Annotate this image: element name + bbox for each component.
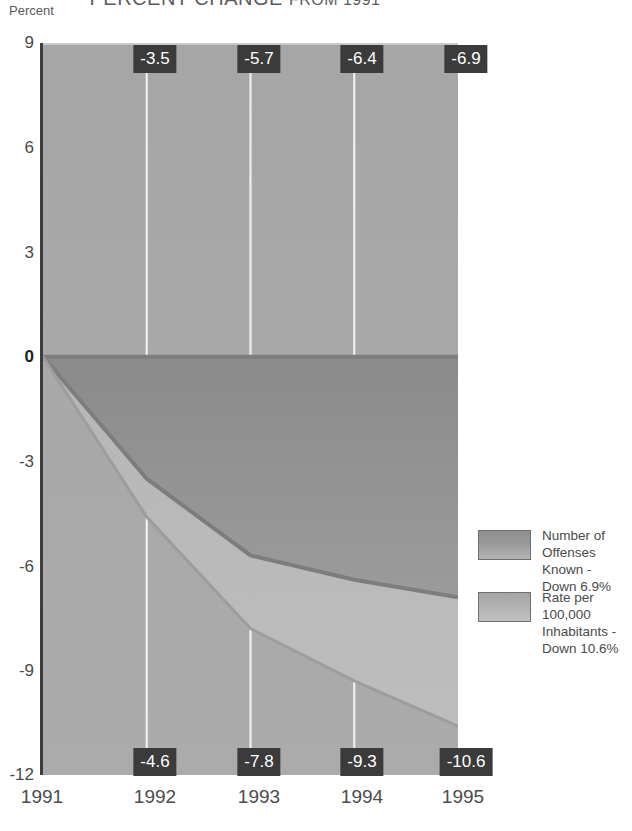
chart-legend: Number of Offenses Known - Down 6.9% Rat… — [478, 528, 628, 652]
x-tick-1991: 1991 — [21, 786, 63, 808]
callout-top-1995: -6.9 — [444, 45, 487, 73]
y-tick-6: 6 — [0, 138, 34, 158]
legend-label-rate-per-100k: Rate per 100,000 Inhabitants - Down 10.6… — [542, 589, 628, 657]
area-chart-svg — [43, 43, 458, 775]
callout-bottom-1995: -10.6 — [440, 748, 493, 776]
y-tick-minus-9: -9 — [0, 661, 34, 681]
legend-swatch-offenses-known — [478, 530, 531, 560]
legend-item-rate-per-100k: Rate per 100,000 Inhabitants - Down 10.6… — [478, 590, 628, 630]
y-tick-minus-12: -12 — [0, 765, 34, 785]
callout-bottom-1993: -7.8 — [237, 748, 280, 776]
chart-title: PERCENT CHANGE FROM 1991 — [0, 0, 470, 10]
callout-top-1994: -6.4 — [340, 45, 383, 73]
y-tick-minus-6: -6 — [0, 557, 34, 577]
callout-bottom-1994: -9.3 — [340, 748, 383, 776]
plot-area — [40, 43, 458, 775]
x-tick-1993: 1993 — [238, 786, 280, 808]
x-tick-1995: 1995 — [442, 786, 484, 808]
callout-top-1993: -5.7 — [237, 45, 280, 73]
y-axis-tick-labels: 9 6 3 0 -3 -6 -9 -12 — [0, 0, 34, 831]
legend-item-offenses-known: Number of Offenses Known - Down 6.9% — [478, 528, 628, 568]
chart-title-suffix: FROM 1991 — [289, 0, 381, 8]
callout-bottom-1992: -4.6 — [133, 748, 176, 776]
x-axis-tick-labels: 1991 1992 1993 1994 1995 — [0, 786, 470, 816]
chart-title-main: PERCENT CHANGE — [89, 0, 282, 9]
legend-label-offenses-known: Number of Offenses Known - Down 6.9% — [542, 527, 628, 595]
y-tick-0: 0 — [0, 347, 34, 367]
y-tick-minus-3: -3 — [0, 452, 34, 472]
x-tick-1992: 1992 — [134, 786, 176, 808]
legend-swatch-rate-per-100k — [478, 592, 531, 622]
y-tick-3: 3 — [0, 243, 34, 263]
callout-top-1992: -3.5 — [133, 45, 176, 73]
y-tick-9: 9 — [0, 33, 34, 53]
x-tick-1994: 1994 — [341, 786, 383, 808]
